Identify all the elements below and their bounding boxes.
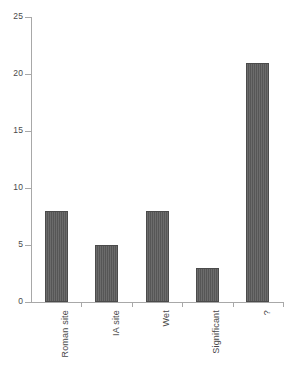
- x-axis-tick: [233, 302, 234, 307]
- y-axis-tick-label: 0: [0, 297, 23, 306]
- y-axis-tick-label: 20: [0, 69, 23, 78]
- y-axis-tick-label: 15: [0, 126, 23, 135]
- y-axis-tick-label-text: 10: [1, 183, 23, 192]
- x-axis-tick: [132, 302, 133, 307]
- y-axis-tick-label-text: 15: [1, 126, 23, 135]
- y-axis-tick-label-text: 5: [1, 240, 23, 249]
- x-axis-tick: [81, 302, 82, 307]
- x-axis-tick: [182, 302, 183, 307]
- y-axis-tick: [25, 302, 31, 303]
- x-axis-tick-label: Roman site: [60, 310, 70, 358]
- x-axis-tick: [283, 302, 284, 307]
- bar: [146, 211, 169, 302]
- bar-chart: 0510152025 Roman siteIA siteWetSignifica…: [0, 0, 291, 373]
- x-axis-tick-label: ?: [262, 310, 272, 315]
- y-axis-tick-label-text: 20: [1, 69, 23, 78]
- plot-area: [31, 17, 283, 302]
- bar: [246, 63, 269, 302]
- x-axis-line: [31, 302, 283, 303]
- bar: [95, 245, 118, 302]
- x-axis-tick-label: Wet: [161, 310, 171, 326]
- x-axis-tick-label: IA site: [111, 310, 121, 336]
- y-axis-tick-label-text: 25: [1, 12, 23, 21]
- x-axis-tick-label: Significant: [211, 310, 221, 354]
- bar: [196, 268, 219, 302]
- y-axis-tick-label: 25: [0, 12, 23, 21]
- bar: [45, 211, 68, 302]
- y-axis-tick-label: 5: [0, 240, 23, 249]
- y-axis-tick-label: 10: [0, 183, 23, 192]
- y-axis-tick-label-text: 0: [1, 297, 23, 306]
